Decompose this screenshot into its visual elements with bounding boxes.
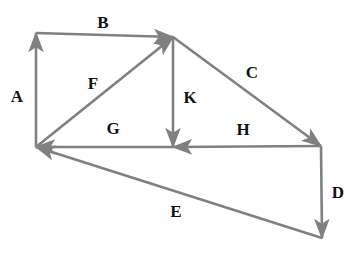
vector-arrow-b [36, 33, 173, 37]
vector-arrow-d [321, 146, 322, 238]
vector-label-b: B [97, 14, 108, 31]
vector-label-e: E [170, 203, 181, 220]
vector-arrow-f [36, 37, 173, 147]
vector-label-h: H [236, 121, 249, 138]
vector-arrow-e [36, 147, 322, 238]
vector-label-g: G [106, 120, 119, 137]
vector-label-a: A [11, 88, 23, 105]
vector-label-k: K [183, 89, 196, 106]
vector-label-f: F [88, 75, 98, 92]
vector-diagram: ABCDEFGHK [0, 0, 358, 259]
vector-arrow-h [173, 146, 321, 147]
vector-label-c: C [246, 64, 258, 81]
vector-label-d: D [332, 184, 344, 201]
